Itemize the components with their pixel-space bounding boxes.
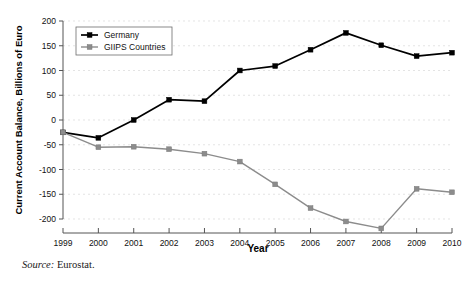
data-point-germany <box>450 50 455 55</box>
data-point-germany <box>237 68 242 73</box>
data-point-giips <box>61 130 66 135</box>
data-point-giips <box>96 145 101 150</box>
data-point-giips <box>131 144 136 149</box>
source-value: Eurostat. <box>57 259 95 270</box>
legend-label: GIIPS Countries <box>104 42 165 52</box>
data-series-layer <box>61 30 455 230</box>
y-axis-label: Current Account Balance, Billions of Eur… <box>13 25 24 214</box>
x-tick-label: 2009 <box>407 238 426 248</box>
y-tick-label: -50 <box>44 140 57 150</box>
y-tick-label: 150 <box>42 41 56 51</box>
legend-marker-giips <box>87 45 92 50</box>
data-point-germany <box>379 43 384 48</box>
y-tick-label: -100 <box>39 165 56 175</box>
data-point-germany <box>308 47 313 52</box>
y-tick-label: -150 <box>39 189 56 199</box>
figure-container: 200150100500-50-100-150-200 199920002001… <box>0 0 472 285</box>
x-tick-label: 2008 <box>372 238 391 248</box>
data-point-giips <box>344 219 349 224</box>
x-tick-label: 1999 <box>54 238 73 248</box>
data-point-germany <box>96 135 101 140</box>
data-point-germany <box>344 30 349 35</box>
data-point-giips <box>308 206 313 211</box>
x-tick-label: 2006 <box>301 238 320 248</box>
y-tick-label: 100 <box>42 66 56 76</box>
x-tick-label: 2003 <box>195 238 214 248</box>
x-tick-label: 2001 <box>124 238 143 248</box>
data-point-giips <box>414 186 419 191</box>
data-point-giips <box>450 190 455 195</box>
x-tick-label: 2000 <box>89 238 108 248</box>
data-point-germany <box>414 54 419 59</box>
y-tick-label: 50 <box>47 90 57 100</box>
data-point-giips <box>379 226 384 231</box>
data-point-germany <box>131 118 136 123</box>
source-caption: Source: Eurostat. <box>22 259 95 270</box>
chart-legend: GermanyGIIPS Countries <box>76 27 172 55</box>
line-chart: 200150100500-50-100-150-200 199920002001… <box>0 0 472 256</box>
y-tick-label: -200 <box>39 214 56 224</box>
series-line-giips <box>63 132 452 228</box>
x-tick-label: 2007 <box>336 238 355 248</box>
y-axis-ticks: 200150100500-50-100-150-200 <box>39 16 63 224</box>
data-point-giips <box>237 159 242 164</box>
x-tick-label: 2010 <box>443 238 462 248</box>
data-point-giips <box>167 147 172 152</box>
y-tick-label: 200 <box>42 16 56 26</box>
data-point-germany <box>273 64 278 69</box>
x-axis-label: Year <box>247 243 268 254</box>
data-point-germany <box>202 99 207 104</box>
legend-marker-germany <box>87 33 92 38</box>
chart-plot-area: 200150100500-50-100-150-200 199920002001… <box>0 0 472 256</box>
data-point-giips <box>273 182 278 187</box>
legend-label: Germany <box>104 30 140 40</box>
y-tick-label: 0 <box>51 115 56 125</box>
source-label: Source: <box>22 259 54 270</box>
x-tick-label: 2005 <box>266 238 285 248</box>
data-point-germany <box>167 97 172 102</box>
x-tick-label: 2002 <box>160 238 179 248</box>
data-point-giips <box>202 151 207 156</box>
